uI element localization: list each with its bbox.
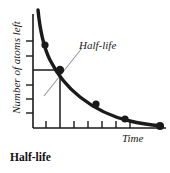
y-axis-label: Number of atoms left (11, 14, 22, 122)
x-axis-label: Time (122, 133, 143, 144)
half-life-annotation-label: Half-life (79, 40, 116, 51)
y-axis-ticks (26, 41, 33, 113)
data-point (156, 122, 164, 130)
data-point (56, 66, 64, 74)
data-point (92, 100, 99, 107)
half-life-decay-figure: Number of atoms left Time Half-life Half… (0, 0, 170, 173)
decay-curve-plot (0, 0, 170, 173)
data-point (121, 115, 128, 122)
x-axis-ticks (46, 121, 130, 128)
figure-caption: Half-life (10, 152, 51, 164)
data-point (41, 41, 48, 48)
